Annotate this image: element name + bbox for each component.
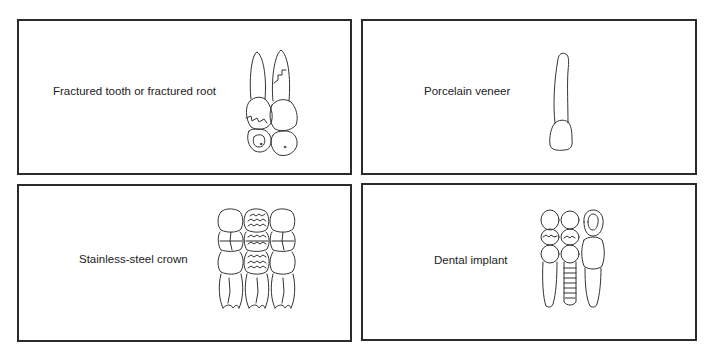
- implant-teeth-icon: [540, 210, 630, 320]
- fractured-teeth-icon: [241, 47, 311, 142]
- incisor-icon: [548, 51, 598, 141]
- implant-threads: [564, 268, 576, 298]
- panel-stainless-steel-crown: Stainless-steel crown: [17, 184, 352, 342]
- label-stainless-steel-crown: Stainless-steel crown: [79, 253, 188, 265]
- panel-porcelain-veneer: Porcelain veneer: [361, 19, 697, 175]
- label-dental-implant: Dental implant: [434, 254, 508, 266]
- panel-dental-implant: Dental implant: [361, 183, 697, 341]
- crowned-molars-icon: [217, 208, 307, 313]
- panel-fractured-tooth: Fractured tooth or fractured root: [17, 19, 352, 175]
- label-porcelain-veneer: Porcelain veneer: [424, 85, 510, 97]
- label-fractured-tooth: Fractured tooth or fractured root: [53, 85, 216, 97]
